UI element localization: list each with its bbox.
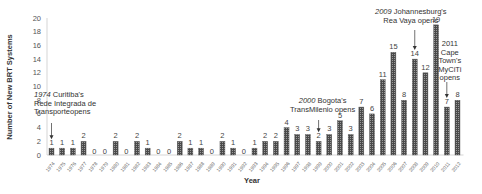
bar bbox=[49, 148, 54, 155]
bar bbox=[70, 148, 75, 155]
data-label: 0 bbox=[242, 147, 246, 156]
data-label: 0 bbox=[167, 147, 171, 156]
y-tick-label: 14 bbox=[33, 55, 41, 64]
data-label: 2 bbox=[220, 131, 224, 140]
x-tick-label: 1999 bbox=[311, 160, 323, 173]
data-label: 3 bbox=[295, 124, 299, 133]
annotation-text: 1974 Curitiba'sRede Integrada deTranspor… bbox=[34, 90, 96, 116]
bar bbox=[327, 134, 332, 155]
x-tick-label: 2011 bbox=[440, 161, 452, 173]
bars bbox=[49, 25, 460, 155]
data-label: 6 bbox=[370, 104, 374, 113]
data-label: 7 bbox=[445, 97, 449, 106]
bar bbox=[412, 59, 417, 155]
bar bbox=[60, 148, 65, 155]
bar bbox=[134, 141, 139, 155]
data-label: 1 bbox=[188, 138, 192, 147]
x-tick-label: 2012 bbox=[450, 160, 462, 173]
data-label: 2 bbox=[81, 131, 85, 140]
y-tick-label: 16 bbox=[33, 41, 41, 50]
bar bbox=[305, 134, 310, 155]
annotation-line: TransMilenio opens bbox=[290, 105, 355, 114]
bar bbox=[263, 141, 268, 155]
x-tick-label: 1993 bbox=[247, 160, 259, 173]
bar bbox=[220, 141, 225, 155]
x-tick-label: 1998 bbox=[301, 160, 313, 173]
data-label: 2 bbox=[263, 131, 267, 140]
bar bbox=[199, 148, 204, 155]
x-tick-label: 1988 bbox=[194, 160, 206, 173]
x-axis: 1974197519761977197819791980198119821983… bbox=[44, 155, 463, 173]
value-labels: 1112002021002110210122433235376111581412… bbox=[49, 15, 459, 156]
bar bbox=[380, 80, 385, 155]
x-tick-label: 1974 bbox=[44, 160, 56, 173]
bar-chart: 02468101214161820 1974197519761977197819… bbox=[0, 0, 482, 194]
annotation-text: 2000 Bogota'sTransMilenio opens bbox=[290, 96, 355, 114]
x-tick-label: 2000 bbox=[322, 160, 334, 173]
x-tick-label: 2004 bbox=[365, 160, 377, 173]
annotation-line: Transporteopens bbox=[34, 107, 91, 116]
bar bbox=[444, 107, 449, 155]
data-label: 1 bbox=[199, 138, 203, 147]
y-tick-label: 18 bbox=[33, 27, 41, 36]
data-label: 0 bbox=[210, 147, 214, 156]
bar bbox=[391, 52, 396, 155]
x-tick-label: 1984 bbox=[151, 160, 163, 173]
x-tick-label: 2009 bbox=[418, 160, 430, 173]
data-label: 0 bbox=[124, 147, 128, 156]
x-tick-label: 2007 bbox=[397, 160, 409, 173]
x-tick-label: 1990 bbox=[215, 160, 227, 173]
data-label: 12 bbox=[421, 63, 429, 72]
x-tick-label: 1980 bbox=[108, 160, 120, 173]
data-label: 0 bbox=[103, 147, 107, 156]
data-label: 1 bbox=[146, 138, 150, 147]
data-label: 3 bbox=[306, 124, 310, 133]
bar bbox=[231, 148, 236, 155]
data-label: 2 bbox=[317, 131, 321, 140]
data-label: 1 bbox=[252, 138, 256, 147]
y-axis: 02468101214161820 bbox=[33, 14, 47, 160]
x-tick-label: 2006 bbox=[386, 160, 398, 173]
x-tick-label: 1981 bbox=[119, 160, 131, 173]
bar bbox=[316, 141, 321, 155]
data-label: 2 bbox=[274, 131, 278, 140]
x-tick-label: 2002 bbox=[343, 160, 355, 173]
y-tick-label: 0 bbox=[37, 151, 41, 160]
bar bbox=[337, 121, 342, 155]
data-label: 8 bbox=[455, 90, 459, 99]
x-tick-label: 1983 bbox=[140, 160, 152, 173]
x-tick-label: 1975 bbox=[55, 160, 67, 173]
annotations: 1974 Curitiba'sRede Integrada deTranspor… bbox=[34, 7, 462, 139]
x-tick-label: 1986 bbox=[172, 160, 184, 173]
annotation-text: 2011CapeTown'sMyCiTiopens bbox=[438, 39, 461, 82]
bar bbox=[273, 141, 278, 155]
x-tick-label: 2005 bbox=[375, 160, 387, 173]
x-tick-label: 1982 bbox=[130, 160, 142, 173]
bar bbox=[434, 25, 439, 155]
data-label: 1 bbox=[231, 138, 235, 147]
annotation: 2000 Bogota'sTransMilenio opens bbox=[290, 96, 355, 132]
x-tick-label: 1994 bbox=[258, 160, 270, 173]
x-tick-label: 1985 bbox=[162, 160, 174, 173]
bar bbox=[370, 114, 375, 155]
bar bbox=[348, 134, 353, 155]
bar bbox=[145, 148, 150, 155]
x-tick-label: 1992 bbox=[236, 160, 248, 173]
data-label: 2 bbox=[178, 131, 182, 140]
bar bbox=[284, 128, 289, 155]
data-label: 0 bbox=[156, 147, 160, 156]
data-label: 3 bbox=[349, 124, 353, 133]
data-label: 2 bbox=[135, 131, 139, 140]
bar bbox=[402, 100, 407, 155]
annotation: 1974 Curitiba'sRede Integrada deTranspor… bbox=[34, 90, 96, 139]
annotation-text: 2009 Johannesburg'sRea Vaya opens bbox=[374, 7, 447, 25]
data-label: 3 bbox=[327, 124, 331, 133]
x-tick-label: 1991 bbox=[226, 160, 238, 173]
bar bbox=[81, 141, 86, 155]
x-tick-label: 1979 bbox=[98, 160, 110, 173]
data-label: 2 bbox=[114, 131, 118, 140]
y-tick-label: 4 bbox=[37, 123, 41, 132]
x-tick-label: 2008 bbox=[407, 160, 419, 173]
data-label: 1 bbox=[60, 138, 64, 147]
y-tick-label: 20 bbox=[33, 14, 41, 23]
